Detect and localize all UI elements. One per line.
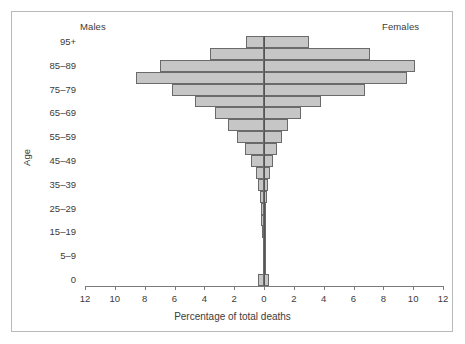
bar-female (264, 60, 415, 72)
y-axis-tick-label: 35–39 (16, 179, 76, 190)
x-axis-tick-label: 4 (312, 293, 336, 304)
x-axis-tick (294, 286, 295, 290)
x-axis-tick-label: 8 (371, 293, 395, 304)
bar-male (246, 36, 264, 48)
bar-female (264, 143, 277, 155)
bar-male (160, 60, 264, 72)
x-axis-tick-label: 4 (192, 293, 216, 304)
bar-female (264, 107, 301, 119)
x-axis-tick (264, 286, 265, 290)
bar-female (264, 72, 407, 84)
bar-male (136, 72, 264, 84)
females-header-label: Females (382, 21, 419, 32)
y-axis-tick-label: 25–29 (16, 203, 76, 214)
zero-axis-line (264, 36, 265, 286)
y-axis-tick-label: 55–59 (16, 131, 76, 142)
x-axis-tick-label: 12 (431, 293, 455, 304)
bar-female (264, 155, 273, 167)
x-axis-line (85, 286, 443, 287)
y-axis-tick-label: 65–69 (16, 107, 76, 118)
y-axis-tick-label: 95+ (16, 36, 76, 47)
x-axis-tick (204, 286, 205, 290)
x-axis-tick-label: 10 (103, 293, 127, 304)
bar-male (195, 96, 264, 108)
x-axis-tick-label: 6 (163, 293, 187, 304)
x-axis-tick (443, 286, 444, 290)
males-header-label: Males (80, 21, 106, 32)
bar-male (215, 107, 264, 119)
bar-female (264, 48, 370, 60)
x-axis-title: Percentage of total deaths (0, 311, 465, 322)
bar-male (237, 131, 264, 143)
x-axis-tick (115, 286, 116, 290)
x-axis-tick (324, 286, 325, 290)
population-pyramid-figure: Males Females Age Percentage of total de… (0, 0, 465, 344)
x-axis-tick (145, 286, 146, 290)
bar-male (172, 84, 264, 96)
x-axis-tick (413, 286, 414, 290)
x-axis-tick (175, 286, 176, 290)
bar-male (245, 143, 264, 155)
y-axis-tick-label: 5–9 (16, 250, 76, 261)
bar-male (228, 119, 264, 131)
y-axis-tick-label: 75–79 (16, 84, 76, 95)
bar-female (264, 36, 309, 48)
bar-female (264, 84, 365, 96)
bar-female (264, 131, 282, 143)
bar-female (264, 119, 288, 131)
y-axis-tick-label: 45–49 (16, 155, 76, 166)
x-axis-tick-label: 0 (252, 293, 276, 304)
x-axis-tick-label: 10 (401, 293, 425, 304)
y-axis-tick-label: 85–89 (16, 60, 76, 71)
bar-male (210, 48, 264, 60)
y-axis-tick-label: 0 (16, 274, 76, 285)
x-axis-tick (234, 286, 235, 290)
x-axis-tick (85, 286, 86, 290)
x-axis-tick (383, 286, 384, 290)
plot-area (85, 36, 443, 286)
bar-female (264, 96, 321, 108)
y-axis-tick-label: 15–19 (16, 226, 76, 237)
x-axis-tick (354, 286, 355, 290)
x-axis-tick-label: 2 (222, 293, 246, 304)
bar-male (251, 155, 264, 167)
x-axis-tick-label: 6 (342, 293, 366, 304)
x-axis-tick-label: 8 (133, 293, 157, 304)
bar-male (256, 167, 264, 179)
x-axis-tick-label: 12 (73, 293, 97, 304)
x-axis-tick-label: 2 (282, 293, 306, 304)
